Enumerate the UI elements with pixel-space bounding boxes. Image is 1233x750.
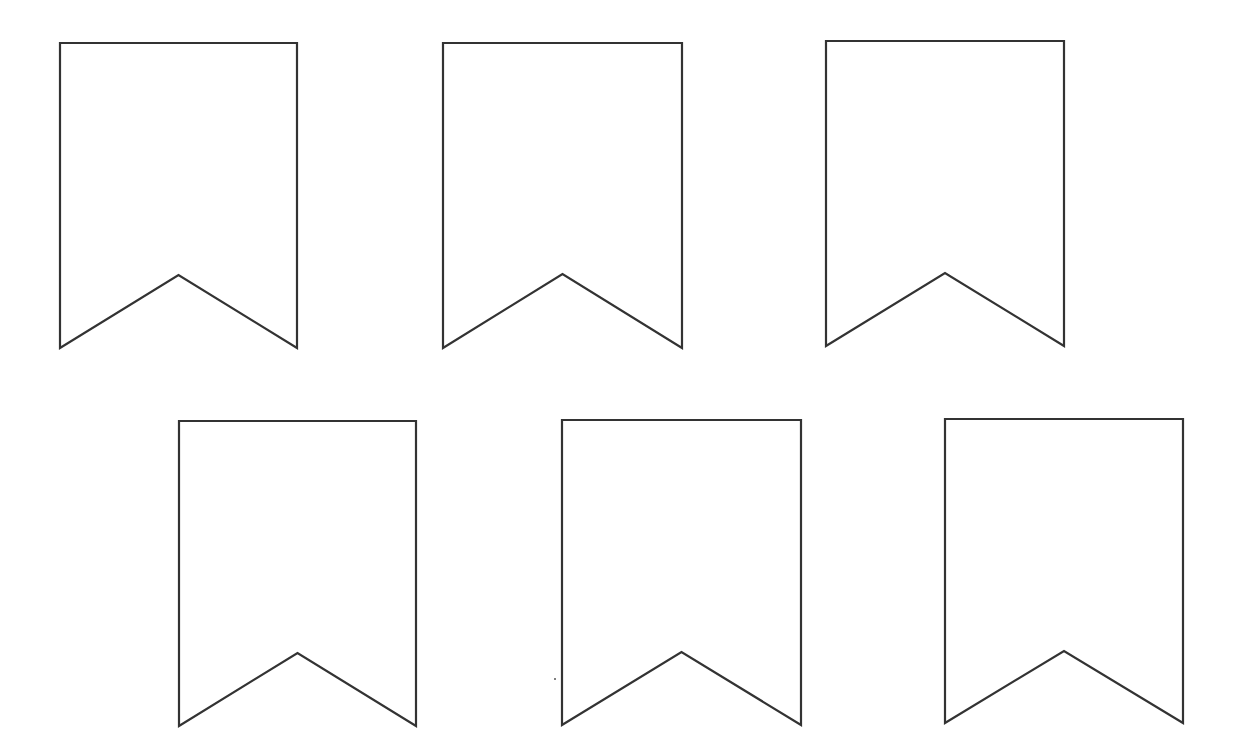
banner-template-canvas <box>0 0 1233 750</box>
scan-speck <box>554 678 556 680</box>
scan-artifacts <box>554 678 556 680</box>
banner-group <box>60 41 1183 726</box>
banner-pennant-6 <box>945 419 1183 723</box>
banner-pennant-3 <box>826 41 1064 346</box>
banner-pennant-2 <box>443 43 682 348</box>
banner-pennant-1 <box>60 43 297 348</box>
banner-pennant-5 <box>562 420 801 725</box>
banner-pennant-4 <box>179 421 416 726</box>
